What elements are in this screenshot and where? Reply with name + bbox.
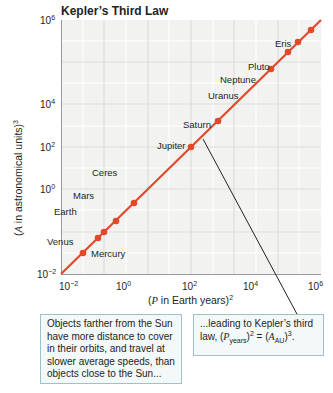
svg-text:100: 100 [40,183,55,195]
svg-text:102: 102 [40,141,55,153]
point-mars [113,218,120,225]
point-jupiter [188,144,195,151]
callout-box-right: ...leading to Kepler’s third law, (Pyear… [193,314,324,356]
svg-text:Ceres: Ceres [92,167,118,178]
svg-text:102: 102 [182,280,197,292]
svg-text:Mercury: Mercury [91,248,126,259]
point-earth [101,229,108,236]
svg-text:106: 106 [308,280,323,292]
x-tick-labels: 10−2 100 102 104 106 [59,280,323,292]
svg-text:Saturn: Saturn [183,119,211,130]
point-mercury [80,250,87,257]
svg-text:Jupiter: Jupiter [157,140,186,151]
svg-text:10−2: 10−2 [59,280,78,292]
x-axis-label: (P in Earth years)2 [148,294,233,306]
svg-text:Earth: Earth [54,206,77,217]
svg-text:104: 104 [40,98,55,110]
point-venus [95,235,102,242]
svg-text:Pluto: Pluto [248,61,270,72]
svg-text:Neptune: Neptune [220,74,256,85]
point-saturn [215,118,222,125]
svg-text:Eris: Eris [275,38,292,49]
svg-text:10−2: 10−2 [37,268,56,280]
point-neptune [285,49,292,56]
svg-text:Uranus: Uranus [208,90,239,101]
point-ceres [131,200,138,207]
y-axis-label: (A in astronomical units)3 [12,120,24,236]
svg-text:Mars: Mars [73,190,94,201]
svg-text:100: 100 [116,280,131,292]
svg-text:Venus: Venus [47,236,74,247]
point-eris [308,27,315,34]
svg-text:106: 106 [40,14,55,26]
svg-text:104: 104 [243,280,258,292]
point-pluto [295,39,302,46]
callout-box-left: Objects farther from the Sun have more d… [40,314,182,384]
